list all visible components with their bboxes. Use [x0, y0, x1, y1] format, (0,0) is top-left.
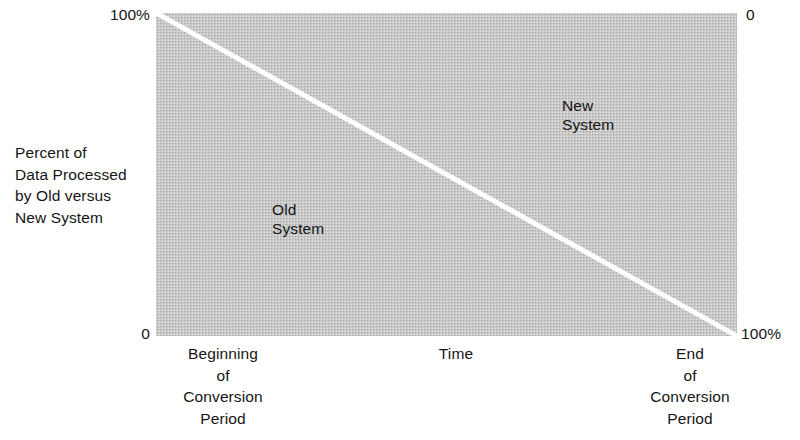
y-axis-caption-line-3: by Old versus [15, 185, 150, 207]
x-axis-caption-beginning-line-3: Conversion [152, 386, 294, 408]
y-axis-right-bottom-label: 100% [741, 325, 781, 343]
y-axis-left-bottom-label: 0 [0, 325, 150, 343]
x-axis-caption-end-line-4: Period [619, 408, 761, 430]
conversion-period-chart: Old System New System 100% 0 0 100% Perc… [0, 0, 800, 440]
x-axis-caption-end: End of Conversion Period [619, 343, 761, 429]
old-new-dividing-line [156, 13, 737, 336]
x-axis-caption-time: Time [395, 343, 517, 365]
y-axis-right-top-label: 0 [746, 6, 755, 24]
x-axis-caption-end-line-1: End [619, 343, 761, 365]
x-axis-caption-beginning-line-2: of [152, 365, 294, 387]
y-axis-caption-line-2: Data Processed [15, 164, 150, 186]
y-axis-caption: Percent of Data Processed by Old versus … [15, 142, 150, 228]
x-axis-caption-end-line-3: Conversion [619, 386, 761, 408]
series-label-new-system: New System [562, 96, 614, 134]
x-axis-caption-end-line-2: of [619, 365, 761, 387]
plot-area [156, 13, 737, 336]
x-axis-caption-beginning-line-1: Beginning [152, 343, 294, 365]
y-axis-caption-line-1: Percent of [15, 142, 150, 164]
x-axis-caption-beginning-line-4: Period [152, 408, 294, 430]
series-label-old-system: Old System [272, 200, 324, 238]
y-axis-caption-line-4: New System [15, 207, 150, 229]
x-axis-caption-beginning: Beginning of Conversion Period [152, 343, 294, 429]
y-axis-left-top-label: 100% [0, 6, 150, 24]
dividing-line-svg [156, 13, 737, 336]
x-axis-caption-time-line-1: Time [395, 343, 517, 365]
